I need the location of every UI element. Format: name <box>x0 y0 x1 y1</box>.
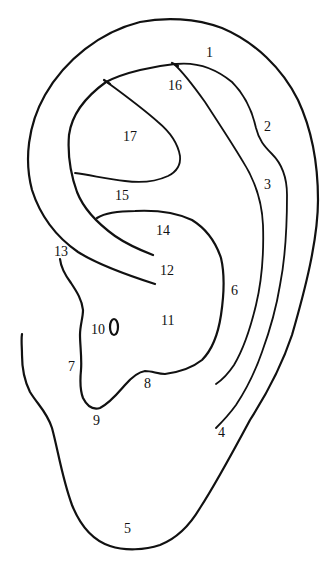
label-11: 11 <box>161 313 174 328</box>
label-7: 7 <box>68 359 75 374</box>
label-17: 17 <box>123 129 137 144</box>
label-1: 1 <box>206 45 213 60</box>
label-6: 6 <box>231 283 238 298</box>
ear-diagram: 1 16 2 17 3 15 14 13 12 6 11 10 7 8 9 4 … <box>0 0 332 566</box>
labels: 1 16 2 17 3 15 14 13 12 6 11 10 7 8 9 4 … <box>54 45 271 536</box>
label-14: 14 <box>156 223 170 238</box>
antihelix-line <box>174 64 263 384</box>
helix-outer-contour <box>22 19 318 549</box>
label-5: 5 <box>124 521 131 536</box>
ear-canal-oval <box>110 319 118 335</box>
label-10: 10 <box>91 322 105 337</box>
label-15: 15 <box>115 188 129 203</box>
label-2: 2 <box>264 119 271 134</box>
label-8: 8 <box>144 376 151 391</box>
label-12: 12 <box>160 263 174 278</box>
label-16: 16 <box>168 78 182 93</box>
label-4: 4 <box>218 425 225 440</box>
concha-contour <box>60 211 224 409</box>
label-9: 9 <box>93 413 100 428</box>
label-3: 3 <box>264 177 271 192</box>
label-13: 13 <box>54 244 68 259</box>
